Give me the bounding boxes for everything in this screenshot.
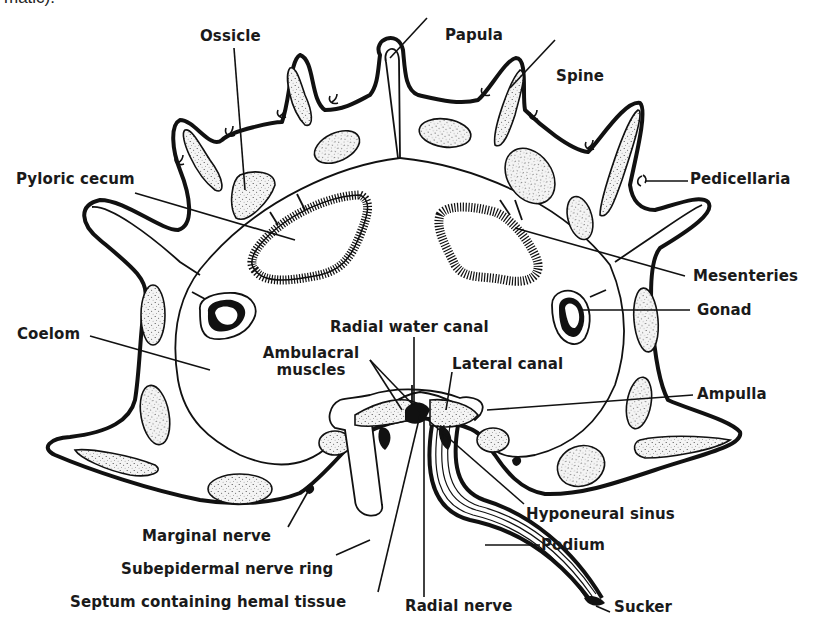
label-gonad: Gonad [697, 301, 752, 319]
label-ambulacral-line2: muscles [246, 362, 376, 379]
label-hyponeural-sinus: Hyponeural sinus [526, 505, 675, 523]
label-radial-water-canal: Radial water canal [330, 318, 489, 336]
label-marginal-nerve: Marginal nerve [142, 527, 271, 545]
label-ossicle: Ossicle [200, 27, 261, 45]
label-ampulla: Ampulla [697, 385, 767, 403]
label-papula: Papula [445, 26, 503, 44]
label-ambulacral-muscles: Ambulacral muscles [246, 345, 376, 379]
label-mesenteries: Mesenteries [693, 267, 798, 285]
label-sucker: Sucker [614, 598, 672, 616]
label-ambulacral-line1: Ambulacral [246, 345, 376, 362]
label-lateral-canal: Lateral canal [452, 355, 563, 373]
label-subepidermal-nerve-ring: Subepidermal nerve ring [121, 560, 333, 578]
label-radial-nerve: Radial nerve [405, 597, 512, 615]
label-pyloric-cecum: Pyloric cecum [16, 170, 135, 188]
label-coelom: Coelom [17, 325, 80, 343]
label-podium: Podium [541, 536, 605, 554]
label-spine: Spine [556, 67, 604, 85]
label-pedicellaria: Pedicellaria [690, 170, 790, 188]
label-septum-hemal-tissue: Septum containing hemal tissue [70, 593, 346, 611]
